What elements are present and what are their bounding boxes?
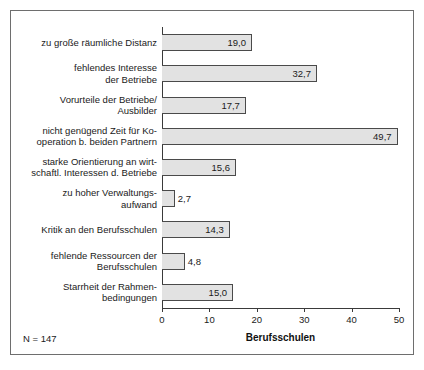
bar-row: Kritik an den Berufsschulen 14,3 (11, 214, 415, 245)
category-label: Vorurteile der Betriebe/ Ausbilder (15, 94, 157, 117)
x-tick-mark (304, 308, 305, 312)
x-tick-label: 50 (394, 314, 405, 325)
bar[interactable]: 4,8 (162, 253, 185, 270)
bar-wrapper: 15,6 (162, 159, 236, 176)
bar-row: Starrheit der Rahmen- bedingungen 15,0 (11, 277, 415, 308)
category-label: fehlende Ressourcen der Berufsschulen (15, 250, 157, 273)
category-label: Starrheit der Rahmen- bedingungen (15, 281, 157, 304)
category-label: fehlendes Interesse der Betriebe (15, 62, 157, 85)
category-label: zu hoher Verwaltungs- aufwand (15, 187, 157, 210)
bar[interactable]: 49,7 (162, 128, 398, 145)
bar-value-label: 15,6 (211, 162, 235, 173)
bar[interactable]: 32,7 (162, 65, 317, 82)
x-tick-label: 10 (204, 314, 215, 325)
category-label: zu große räumliche Distanz (15, 37, 157, 48)
x-tick-label: 30 (299, 314, 310, 325)
bar-value-label: 17,7 (221, 100, 245, 111)
bar-wrapper: 32,7 (162, 65, 317, 82)
bar-wrapper: 4,8 (162, 253, 185, 270)
bar-value-label: 49,7 (373, 131, 397, 142)
bar-row: starke Orientierung an wirt- schaftl. In… (11, 152, 415, 183)
bar-row: Vorurteile der Betriebe/ Ausbilder 17,7 (11, 89, 415, 120)
bar-rows: zu große räumliche Distanz 19,0 fehlende… (11, 27, 415, 308)
plot-area: zu große räumliche Distanz 19,0 fehlende… (11, 11, 415, 356)
bar-wrapper: 19,0 (162, 34, 252, 51)
bar-wrapper: 49,7 (162, 128, 398, 145)
x-tick-mark (209, 308, 210, 312)
sample-size-note: N = 147 (23, 333, 57, 344)
bar[interactable]: 15,0 (162, 284, 233, 301)
bar-value-label: 32,7 (292, 68, 316, 79)
bar-row: zu große räumliche Distanz 19,0 (11, 27, 415, 58)
bar-wrapper: 15,0 (162, 284, 233, 301)
x-tick-label: 40 (346, 314, 357, 325)
x-tick-mark (162, 308, 163, 312)
bar-row: fehlende Ressourcen der Berufsschulen 4,… (11, 246, 415, 277)
bar-value-label: 2,7 (174, 193, 191, 204)
bar-wrapper: 17,7 (162, 97, 246, 114)
bar[interactable]: 17,7 (162, 97, 246, 114)
category-label: starke Orientierung an wirt- schaftl. In… (15, 156, 157, 179)
bar-wrapper: 14,3 (162, 221, 230, 238)
bar[interactable]: 19,0 (162, 34, 252, 51)
x-axis-ticks: 01020304050 (11, 308, 415, 332)
x-tick-mark (399, 308, 400, 312)
x-tick-label: 0 (159, 314, 164, 325)
bar-wrapper: 2,7 (162, 190, 175, 207)
bar-value-label: 19,0 (228, 37, 252, 48)
x-tick-mark (352, 308, 353, 312)
bar-value-label: 14,3 (205, 224, 229, 235)
bar-value-label: 15,0 (209, 287, 233, 298)
category-label: nicht genügend Zeit für Ko- operation b.… (15, 125, 157, 148)
bar[interactable]: 2,7 (162, 190, 175, 207)
chart-figure: zu große räumliche Distanz 19,0 fehlende… (10, 10, 414, 355)
bar[interactable]: 15,6 (162, 159, 236, 176)
x-tick-mark (257, 308, 258, 312)
bar-row: zu hoher Verwaltungs- aufwand 2,7 (11, 183, 415, 214)
bar-value-label: 4,8 (184, 256, 201, 267)
bar[interactable]: 14,3 (162, 221, 230, 238)
x-tick-label: 20 (252, 314, 263, 325)
category-label: Kritik an den Berufsschulen (15, 224, 157, 235)
bar-row: nicht genügend Zeit für Ko- operation b.… (11, 121, 415, 152)
x-axis-title: Berufsschulen (162, 332, 399, 343)
bar-row: fehlendes Interesse der Betriebe 32,7 (11, 58, 415, 89)
